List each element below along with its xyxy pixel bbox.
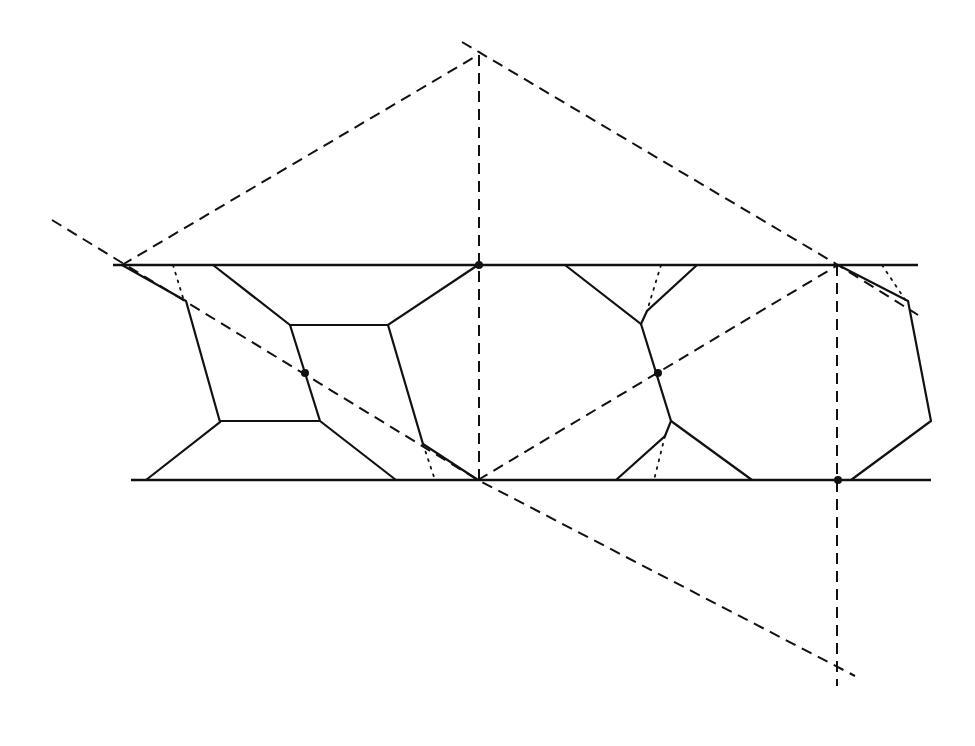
cell-center-spine: [616, 324, 671, 480]
cell-edges: [122, 265, 931, 480]
dashed-apex-to-right: [462, 42, 918, 315]
dotted-auxiliary-lines: [173, 265, 906, 480]
cell-right-polygon: [838, 265, 931, 480]
diagram-canvas: [0, 0, 975, 746]
dashed-left-to-apex: [122, 55, 478, 265]
dashed-construction-lines: [52, 42, 918, 686]
marked-points: [301, 261, 842, 484]
cell-lower-right-diagonal: [320, 421, 396, 480]
point-bottom-right: [834, 476, 842, 484]
cell-right-edge: [388, 325, 478, 480]
cell-upper-trapezoid: [213, 265, 478, 325]
cell-center-upper: [565, 265, 697, 324]
cell-center-lower-right: [671, 421, 752, 480]
dotted-center-bottom: [654, 436, 665, 480]
point-center-cell: [654, 369, 662, 377]
cell-left-outer-edge: [122, 265, 220, 480]
band-lines: [113, 265, 931, 480]
point-left-cell: [301, 369, 309, 377]
dashed-left-diagonal-down: [52, 220, 855, 676]
point-top-center: [475, 261, 483, 269]
